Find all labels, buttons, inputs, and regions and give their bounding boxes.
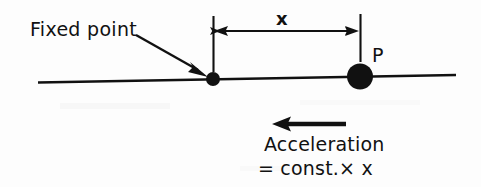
displacement-label: x [276, 10, 288, 28]
axis-line [38, 75, 456, 83]
fixed-point-arrow-head-icon [188, 62, 208, 77]
acceleration-label: Acceleration [264, 135, 384, 154]
particle-label: P [372, 46, 383, 65]
fixed-point-leader-line [136, 35, 198, 70]
fixed-point-marker [206, 72, 220, 86]
particle-p-marker [347, 64, 373, 90]
physics-diagram-figure: Fixed point x P Acceleration = const.× x [0, 0, 481, 187]
acceleration-formula-label: = const.× x [258, 159, 373, 178]
fixed-point-label: Fixed point [30, 20, 137, 39]
